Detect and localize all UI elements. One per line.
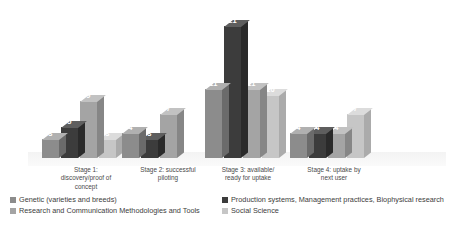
chart-category-axis: Stage 1:discovery/proof ofconceptStage 2… bbox=[0, 166, 460, 196]
legend-label-production-systems: Production systems, Management practices… bbox=[231, 195, 444, 204]
bar-1-1: 3 bbox=[42, 139, 59, 158]
legend-swatch-social-science bbox=[222, 208, 228, 214]
bar-side-face bbox=[222, 84, 229, 158]
bar-value-label: 7 bbox=[347, 104, 364, 113]
bar-value-label: 3 bbox=[42, 129, 59, 138]
bar-side-face bbox=[260, 84, 267, 158]
bar-side-face bbox=[177, 109, 184, 158]
legend-swatch-production-systems bbox=[222, 197, 228, 203]
category-label-line: concept bbox=[40, 183, 132, 191]
bar-side-face bbox=[279, 90, 286, 158]
category-label-line: ready for uptake bbox=[202, 174, 294, 182]
bar-value-label: 5 bbox=[61, 117, 78, 126]
legend-item-production-systems[interactable]: Production systems, Management practices… bbox=[222, 195, 444, 204]
bar-value-label: 7 bbox=[160, 104, 177, 113]
legend-label-research-methodologies: Research and Communication Methodologies… bbox=[19, 206, 200, 215]
chart-legend: Genetic (varieties and breeds) Productio… bbox=[10, 195, 454, 217]
category-label-2: Stage 2: successfulpiloting bbox=[122, 166, 214, 183]
legend-swatch-research-methodologies bbox=[10, 208, 16, 214]
bar-front-face bbox=[205, 89, 222, 158]
legend-label-social-science: Social Science bbox=[231, 206, 279, 215]
bar-3-1: 11 bbox=[205, 89, 222, 158]
legend-row-1: Genetic (varieties and breeds) Productio… bbox=[10, 195, 454, 206]
bar-front-face bbox=[122, 133, 139, 158]
category-label-line: Stage 1: bbox=[40, 166, 132, 174]
bar-4-1: 4 bbox=[290, 133, 307, 158]
category-label-3: Stage 3: available/ready for uptake bbox=[202, 166, 294, 183]
category-label-4: Stage 4: uptake bynext user bbox=[288, 166, 380, 183]
bar-side-face bbox=[97, 96, 104, 158]
bar-side-face bbox=[364, 109, 371, 158]
category-label-line: Stage 3: available/ bbox=[202, 166, 294, 174]
figure-caption-cutoff bbox=[10, 225, 450, 236]
bar-side-face bbox=[241, 21, 248, 158]
bar-value-label: 9 bbox=[80, 91, 97, 100]
bar-front-face bbox=[42, 139, 59, 158]
legend-item-research-methodologies[interactable]: Research and Communication Methodologies… bbox=[10, 206, 200, 215]
bar-value-label: 11 bbox=[205, 79, 222, 88]
bar-front-face bbox=[290, 133, 307, 158]
category-label-1: Stage 1:discovery/proof ofconcept bbox=[40, 166, 132, 191]
category-label-line: Stage 2: successful bbox=[122, 166, 214, 174]
category-label-line: Stage 4: uptake by bbox=[288, 166, 380, 174]
category-label-line: piloting bbox=[122, 174, 214, 182]
bar-value-label: 4 bbox=[122, 123, 139, 132]
legend-swatch-genetic bbox=[10, 197, 16, 203]
legend-label-genetic: Genetic (varieties and breeds) bbox=[19, 195, 117, 204]
category-label-line: next user bbox=[288, 174, 380, 182]
bar-value-label: 4 bbox=[290, 123, 307, 132]
legend-item-genetic[interactable]: Genetic (varieties and breeds) bbox=[10, 195, 117, 204]
bar-value-label: 21 bbox=[224, 16, 241, 25]
legend-item-social-science[interactable]: Social Science bbox=[222, 206, 279, 215]
category-label-line: discovery/proof of bbox=[40, 174, 132, 182]
chart-container: 3107971145321434114 Stage 1:discovery/pr… bbox=[0, 0, 460, 236]
legend-row-2: Research and Communication Methodologies… bbox=[10, 206, 454, 217]
bar-2-1: 4 bbox=[122, 133, 139, 158]
chart-plot-area: 3107971145321434114 bbox=[0, 0, 460, 168]
